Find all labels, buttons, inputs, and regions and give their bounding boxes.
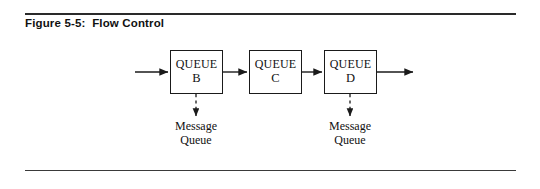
message-queue-label-d-line2: Queue: [300, 133, 400, 147]
flow-control-diagram: [0, 0, 540, 189]
queue-box-b-letter: B: [192, 72, 200, 86]
message-queue-label-b-line2: Queue: [146, 133, 246, 147]
message-queue-label-d-line1: Message: [300, 119, 400, 133]
queue-box-b: QUEUE B: [170, 50, 223, 94]
queue-box-d-title: QUEUE: [330, 58, 372, 71]
message-queue-label-b: Message Queue: [146, 119, 246, 147]
bottom-divider-rule: [25, 170, 516, 171]
queue-box-c: QUEUE C: [249, 50, 302, 94]
queue-box-b-title: QUEUE: [176, 58, 218, 71]
queue-box-c-title: QUEUE: [255, 58, 297, 71]
queue-box-c-letter: C: [271, 72, 279, 86]
queue-box-d-letter: D: [346, 72, 355, 86]
message-queue-label-d: Message Queue: [300, 119, 400, 147]
figure-page: Figure 5-5: Flow Control QUEUE B QUEUE C: [0, 0, 540, 189]
queue-box-d: QUEUE D: [324, 50, 377, 94]
message-queue-label-b-line1: Message: [146, 119, 246, 133]
message-queue-connector-group: [196, 94, 350, 116]
